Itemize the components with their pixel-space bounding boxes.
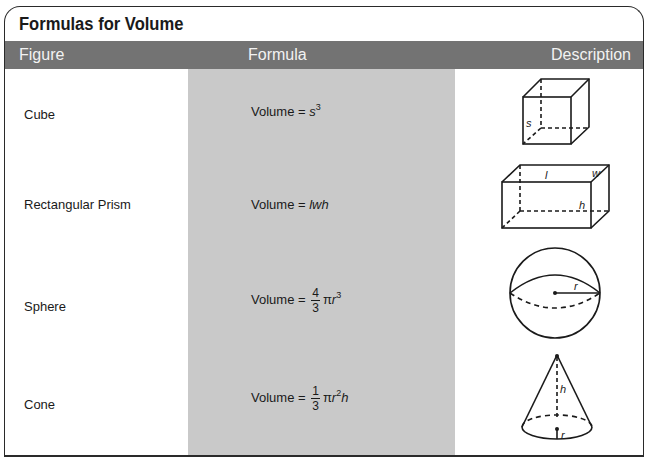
- prism-label-h: h: [579, 199, 585, 211]
- prism-label-w: w: [592, 167, 601, 179]
- fraction-denominator: 3: [311, 399, 320, 412]
- formula-exponent: 3: [336, 290, 341, 300]
- column-header-description: Description: [551, 46, 631, 64]
- formula-prefix: Volume =: [251, 390, 309, 405]
- formula-suffix: h: [341, 390, 348, 405]
- formula-prefix: Volume =: [251, 197, 309, 212]
- fraction-denominator: 3: [311, 301, 320, 314]
- figure-name: Sphere: [24, 299, 66, 314]
- cube-label-s: s: [526, 117, 532, 129]
- figure-name: Cube: [24, 107, 55, 122]
- figure-name: Cone: [24, 397, 55, 412]
- cube-diagram: s: [521, 75, 601, 147]
- fraction: 43: [311, 287, 320, 314]
- prism-label-l: l: [545, 169, 548, 181]
- formula-prefix: Volume =: [251, 292, 309, 307]
- table-header: Figure Formula Description: [5, 41, 643, 69]
- fraction-numerator: 4: [311, 287, 320, 301]
- cone-label-h: h: [560, 383, 566, 395]
- column-header-figure: Figure: [19, 46, 64, 64]
- formula: Volume = s3: [251, 104, 321, 119]
- formula-variable: lwh: [309, 197, 329, 212]
- fraction-numerator: 1: [311, 385, 320, 399]
- column-header-formula: Formula: [248, 46, 307, 64]
- sphere-label-r: r: [574, 280, 579, 292]
- figure-name: Rectangular Prism: [24, 197, 131, 212]
- fraction: 13: [311, 385, 320, 412]
- bottom-border: [4, 455, 644, 457]
- formula: Volume = 13πr2h: [251, 385, 348, 412]
- formulas-card: Formulas for Volume Figure Formula Descr…: [4, 6, 644, 456]
- formula-exponent: 3: [316, 102, 321, 112]
- formula: Volume = 43πr3: [251, 287, 341, 314]
- cone-diagram: h r: [517, 351, 597, 455]
- formula: Volume = lwh: [251, 197, 329, 212]
- formula-prefix: Volume =: [251, 104, 309, 119]
- formula-pi: π: [323, 390, 332, 405]
- rectangular-prism-diagram: l w h: [499, 163, 611, 233]
- card-title: Formulas for Volume: [19, 14, 183, 35]
- formula-pi: π: [323, 292, 332, 307]
- sphere-diagram: r: [507, 245, 605, 343]
